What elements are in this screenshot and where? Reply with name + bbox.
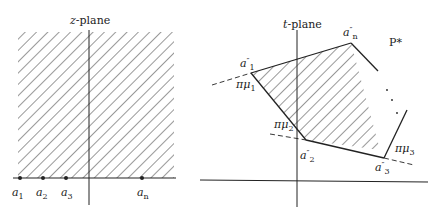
real-axis: [200, 180, 428, 182]
extension-a3: [384, 158, 414, 165]
label-a3-prime: a″3: [375, 160, 390, 176]
point-a3: [64, 176, 68, 180]
label-a1: a1: [12, 186, 24, 201]
point-a2: [41, 176, 45, 180]
label-a2: a2: [36, 186, 48, 201]
point-an: [140, 176, 144, 180]
point-a1: [18, 176, 22, 180]
polygon-label: P*: [389, 36, 402, 49]
ellipsis-dot: [391, 99, 393, 101]
ellipsis-dot: [386, 89, 388, 91]
label-a2-prime: a″2: [300, 148, 315, 164]
label-an: an: [137, 186, 149, 201]
z-plane-panel: z-plane a1 a2 a3 an: [12, 14, 176, 205]
conformal-mapping-diagram: z-plane a1 a2 a3 an t-plane a″1 a″2: [0, 0, 438, 218]
t-plane-panel: t-plane a″1 a″2 a″3 a″n πμ1 πμ2 πμ3 P*: [200, 18, 428, 207]
label-a3: a3: [61, 186, 73, 201]
ellipsis-dot: [396, 112, 398, 114]
label-a1-prime: a″1: [240, 56, 255, 72]
extension-a2: [270, 134, 306, 140]
t-plane-title: t-plane: [283, 18, 322, 31]
label-pi-mu1: πμ1: [235, 78, 255, 93]
label-pi-mu3: πμ3: [394, 142, 414, 157]
label-an-prime: a″n: [343, 25, 358, 41]
upper-half-plane-hatching: [18, 32, 174, 178]
z-plane-title: z-plane: [69, 14, 110, 27]
